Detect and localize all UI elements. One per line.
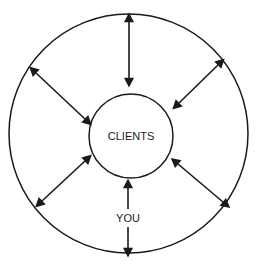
arrow-lower-right (178, 164, 223, 202)
radial-clients-diagram: CLIENTS YOU (0, 0, 259, 269)
diagram-canvas: CLIENTS YOU (0, 0, 259, 269)
center-label-clients: CLIENTS (108, 130, 154, 142)
arrow-lower-left (42, 161, 85, 201)
arrow-upper-right (179, 65, 218, 103)
arrow-upper-left (36, 73, 85, 119)
spoke-label-you: YOU (116, 212, 140, 224)
